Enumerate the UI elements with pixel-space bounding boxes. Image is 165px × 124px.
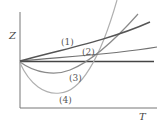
x-axis-label: T [139, 111, 147, 122]
curve-3-label: (3) [69, 73, 82, 83]
curve-3 [20, 14, 138, 73]
curve-1-label: (1) [61, 37, 74, 47]
y-axis-label: Z [8, 30, 17, 41]
curve-2-label: (2) [82, 47, 95, 57]
curve-4-label: (4) [59, 95, 72, 105]
chart: Z T (1) (2) (3) (4) [0, 0, 165, 124]
